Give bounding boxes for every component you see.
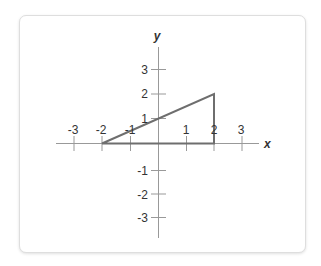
x-tick-label: -3 [68, 123, 79, 137]
x-tick-label: 1 [183, 123, 190, 137]
x-tick-label: -2 [96, 123, 107, 137]
y-tick-label: -1 [137, 164, 148, 178]
y-tick-label: -3 [137, 211, 148, 225]
y-axis-label: y [153, 29, 162, 43]
y-tick-label: -2 [137, 188, 148, 202]
x-tick-label: 2 [211, 123, 218, 137]
x-axis-label: x [263, 137, 272, 151]
x-tick-label: -1 [125, 123, 136, 137]
x-tick-label: 3 [238, 123, 245, 137]
y-tick-label: 1 [141, 112, 148, 126]
y-tick-label: 2 [141, 87, 148, 101]
coordinate-plane: -3 -2 -1 1 2 3 3 2 1 -1 -2 -3 x y [0, 0, 321, 266]
y-tick-label: 3 [141, 63, 148, 77]
